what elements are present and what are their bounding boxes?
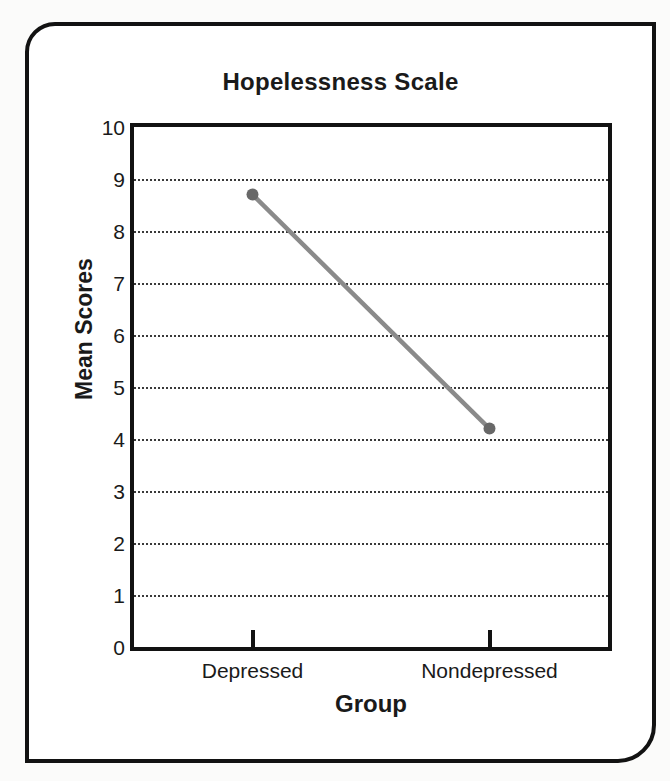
series-line xyxy=(253,195,490,429)
y-tick-label: 5 xyxy=(57,377,125,398)
y-axis-tick-labels: 012345678910 xyxy=(57,127,125,647)
data-point-marker xyxy=(484,423,496,435)
plot-area xyxy=(130,123,612,651)
y-tick-label: 6 xyxy=(57,325,125,346)
x-axis-category-labels: DepressedNondepressed xyxy=(134,659,608,683)
y-tick-label: 2 xyxy=(57,533,125,554)
y-tick-label: 10 xyxy=(57,117,125,138)
y-tick-label: 7 xyxy=(57,273,125,294)
y-tick-label: 0 xyxy=(57,637,125,658)
y-tick-label: 1 xyxy=(57,585,125,606)
data-point-marker xyxy=(247,189,259,201)
x-category-label: Depressed xyxy=(202,659,304,683)
series-line-svg xyxy=(134,127,608,647)
figure-frame: Hopelessness Scale Mean Scores 012345678… xyxy=(25,22,656,763)
chart-title: Hopelessness Scale xyxy=(29,68,652,96)
y-tick-label: 3 xyxy=(57,481,125,502)
y-tick-label: 9 xyxy=(57,169,125,190)
y-tick-label: 4 xyxy=(57,429,125,450)
x-axis-title: Group xyxy=(130,690,612,718)
y-tick-label: 8 xyxy=(57,221,125,242)
x-category-label: Nondepressed xyxy=(421,659,558,683)
